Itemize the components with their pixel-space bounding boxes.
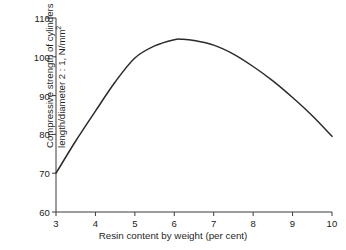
y-axis-title-line-2-text: length/diameter 2 : 1, N/mm <box>56 30 67 148</box>
x-axis-title: Resin content by weight (per cent) <box>0 230 346 241</box>
y-axis-title-line-2: length/diameter 2 : 1, N/mm2 <box>56 0 68 148</box>
y-axis-tick-label: 70 <box>20 168 50 179</box>
x-axis-tick-label: 3 <box>53 218 58 229</box>
x-axis-ticks <box>56 212 332 216</box>
data-series-line <box>56 39 332 173</box>
axis-lines <box>56 18 332 212</box>
y-axis-title: Compressive strength of cylinders length… <box>44 0 68 148</box>
y-axis-title-exponent: 2 <box>55 26 62 30</box>
x-axis-tick-label: 9 <box>290 218 295 229</box>
y-axis-title-line-1: Compressive strength of cylinders <box>44 0 56 148</box>
chart-figure: 60708090100110 345678910 Compressive str… <box>0 0 346 250</box>
y-axis-tick-label: 60 <box>20 207 50 218</box>
x-axis-tick-label: 6 <box>172 218 177 229</box>
x-axis-tick-label: 8 <box>250 218 255 229</box>
x-axis-tick-label: 5 <box>132 218 137 229</box>
x-axis-tick-label: 4 <box>93 218 98 229</box>
x-axis-tick-label: 7 <box>211 218 216 229</box>
x-axis-tick-label: 10 <box>327 218 338 229</box>
